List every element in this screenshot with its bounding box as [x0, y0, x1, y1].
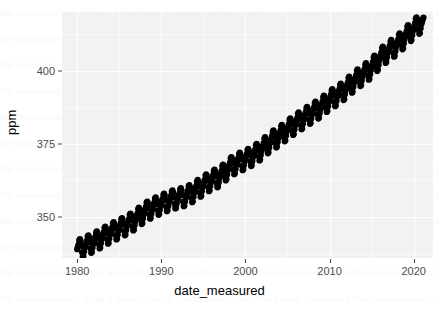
plot-panel — [62, 12, 433, 258]
scatter-point-group — [74, 14, 427, 258]
x-tick-mark — [161, 259, 162, 263]
y-tick-mark — [58, 217, 62, 218]
chart-figure: the measurements show a steady rise in c… — [0, 0, 439, 311]
x-tick-label: 2020 — [401, 265, 425, 277]
y-tick-label: 400 — [37, 65, 55, 77]
scatter-points-layer — [62, 12, 433, 258]
x-tick-mark — [414, 259, 415, 263]
y-tick-label: 375 — [37, 138, 55, 150]
x-tick-label: 2010 — [317, 265, 341, 277]
x-axis-title: date_measured — [0, 283, 439, 298]
x-tick-mark — [330, 259, 331, 263]
x-tick-mark — [77, 259, 78, 263]
x-tick-label: 1980 — [65, 265, 89, 277]
y-axis-title: ppm — [4, 110, 19, 135]
x-tick-mark — [245, 259, 246, 263]
x-tick-label: 2000 — [233, 265, 257, 277]
x-tick-label: 1990 — [149, 265, 173, 277]
y-tick-mark — [58, 143, 62, 144]
y-tick-label: 350 — [37, 211, 55, 223]
y-tick-mark — [58, 70, 62, 71]
scatter-series — [62, 12, 433, 258]
